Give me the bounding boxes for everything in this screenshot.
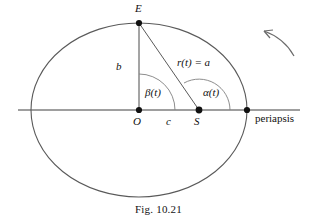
label-radius-rt: r(t) = a	[177, 57, 210, 68]
label-point-S: S	[194, 116, 200, 127]
point-periapsis-dot	[244, 107, 250, 113]
label-point-E: E	[135, 3, 142, 14]
direction-arrow-curve	[264, 31, 294, 56]
point-E-dot	[136, 20, 142, 26]
label-periapsis: periapsis	[255, 113, 294, 124]
label-angle-alpha: α(t)	[203, 87, 219, 98]
label-point-O: O	[133, 116, 141, 127]
label-angle-beta: β(t)	[145, 87, 161, 98]
figure-caption: Fig. 10.21	[0, 203, 317, 215]
point-O-dot	[136, 107, 142, 113]
figure-container: E b r(t) = a β(t) α(t) O c S periapsis F…	[0, 0, 317, 223]
point-S-dot	[196, 107, 203, 114]
label-focal-distance-c: c	[166, 116, 171, 127]
label-semi-minor-b: b	[116, 61, 122, 72]
